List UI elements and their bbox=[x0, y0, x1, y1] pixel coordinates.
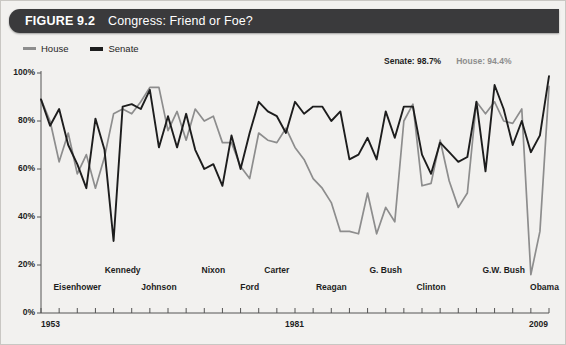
x-axis-year-1981: 1981 bbox=[285, 319, 304, 329]
y-axis-tick-label: 0% bbox=[5, 307, 35, 317]
president-label-reagan: Reagan bbox=[316, 282, 347, 292]
figure-container: FIGURE 9.2 Congress: Friend or Foe? Hous… bbox=[0, 0, 566, 345]
president-label-carter: Carter bbox=[264, 265, 289, 275]
x-axis-year-1953: 1953 bbox=[41, 319, 60, 329]
chart-svg bbox=[1, 1, 566, 345]
president-label-ford: Ford bbox=[240, 282, 259, 292]
y-axis-tick-label: 60% bbox=[5, 163, 35, 173]
president-label-g-w-bush: G.W. Bush bbox=[482, 265, 525, 275]
y-axis-tick-label: 40% bbox=[5, 211, 35, 221]
series-line-senate bbox=[41, 76, 549, 241]
y-axis-tick-label: 100% bbox=[5, 67, 35, 77]
president-label-clinton: Clinton bbox=[416, 282, 445, 292]
president-label-nixon: Nixon bbox=[202, 265, 226, 275]
plot-area bbox=[1, 1, 566, 345]
president-label-kennedy: Kennedy bbox=[105, 265, 141, 275]
y-axis-tick-label: 20% bbox=[5, 259, 35, 269]
president-label-obama: Obama bbox=[530, 282, 559, 292]
president-label-johnson: Johnson bbox=[141, 282, 176, 292]
x-axis-year-2009: 2009 bbox=[529, 319, 548, 329]
y-axis-tick-label: 80% bbox=[5, 115, 35, 125]
president-label-g-bush: G. Bush bbox=[369, 265, 402, 275]
president-label-eisenhower: Eisenhower bbox=[53, 282, 101, 292]
